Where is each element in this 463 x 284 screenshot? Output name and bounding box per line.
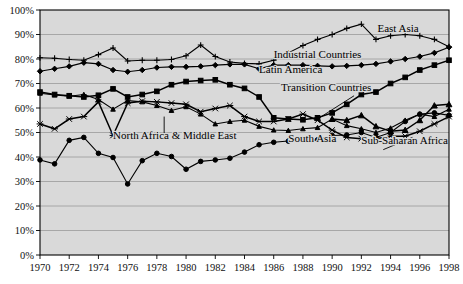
line-chart: 0%10%20%30%40%50%60%70%80%90%100%1970197…: [0, 0, 463, 284]
data-point: [111, 87, 116, 92]
data-point: [213, 158, 218, 163]
x-tick-label-1974: 1974: [88, 262, 110, 273]
series-label-east-asia: East Asia: [377, 22, 418, 34]
data-point: [359, 92, 364, 97]
x-tick-label-1978: 1978: [146, 262, 167, 273]
x-tick-label-1976: 1976: [117, 262, 138, 273]
x-tick-label-1996: 1996: [409, 262, 430, 273]
x-tick-label-1998: 1998: [439, 262, 460, 273]
data-point: [169, 82, 174, 87]
data-point: [140, 158, 145, 163]
series-label-north-africa-middle-east: North Africa & Middle East: [113, 129, 236, 141]
x-tick-label-1982: 1982: [205, 262, 226, 273]
y-tick-label-90: 90%: [15, 29, 35, 40]
data-point: [213, 78, 218, 83]
data-point: [374, 90, 379, 95]
data-point: [403, 75, 408, 80]
data-point: [184, 167, 189, 172]
y-tick-label-80: 80%: [15, 54, 35, 65]
x-tick-label-1970: 1970: [30, 262, 51, 273]
data-point: [169, 154, 174, 159]
data-point: [198, 159, 203, 164]
data-point: [271, 140, 276, 145]
y-tick-label-30: 30%: [15, 176, 35, 187]
series-label-industrial-countries: Industrial Countries: [274, 48, 362, 60]
series-label-south-asia: South Asia: [288, 132, 336, 144]
data-point: [242, 150, 247, 155]
x-tick-label-1990: 1990: [322, 262, 343, 273]
y-tick-label-70: 70%: [15, 78, 35, 89]
x-tick-label-1984: 1984: [234, 262, 256, 273]
series-label-latin-america: Latin America: [259, 63, 322, 75]
x-tick-label-1986: 1986: [263, 262, 284, 273]
data-point: [111, 155, 116, 160]
series-annotation-1: Industrial CountriesIndustrial Countries: [274, 48, 362, 60]
data-point: [155, 89, 160, 94]
data-point: [198, 78, 203, 83]
x-axis: 1970197219741976197819801982198419861988…: [30, 255, 460, 273]
y-tick-label-60: 60%: [15, 103, 35, 114]
data-point: [242, 86, 247, 91]
x-tick-label-1980: 1980: [176, 262, 197, 273]
data-point: [184, 79, 189, 84]
data-point: [403, 119, 408, 124]
data-point: [417, 112, 422, 117]
data-point: [257, 142, 262, 147]
y-tick-label-20: 20%: [15, 201, 35, 212]
data-point: [417, 68, 422, 73]
series-annotation-0: East AsiaEast Asia: [377, 22, 418, 34]
y-tick-label-40: 40%: [15, 152, 35, 163]
y-tick-label-50: 50%: [15, 127, 35, 138]
data-point: [82, 135, 87, 140]
y-tick-label-10: 10%: [15, 225, 35, 236]
y-axis: 0%10%20%30%40%50%60%70%80%90%100%: [10, 5, 41, 261]
data-point: [125, 182, 130, 187]
data-point: [67, 138, 72, 143]
series-annotation-2: Latin AmericaLatin America: [259, 63, 322, 75]
series-label-sub-saharan-africa: Sub-Saharan Africa: [361, 134, 448, 146]
data-point: [96, 151, 101, 156]
data-point: [228, 82, 233, 87]
data-point: [228, 156, 233, 161]
x-tick-label-1972: 1972: [59, 262, 80, 273]
x-tick-label-1994: 1994: [380, 262, 402, 273]
data-point: [301, 117, 306, 122]
y-tick-label-100: 100%: [10, 5, 35, 16]
series-annotation-5: South AsiaSouth Asia: [288, 132, 336, 144]
x-tick-label-1988: 1988: [292, 262, 313, 273]
series-label-transition-countries: Transition Countries: [281, 81, 371, 93]
data-point: [155, 151, 160, 156]
chart-container: 0%10%20%30%40%50%60%70%80%90%100%1970197…: [0, 0, 463, 284]
data-point: [344, 102, 349, 107]
data-point: [257, 95, 262, 100]
data-point: [432, 63, 437, 68]
x-tick-label-1992: 1992: [351, 262, 372, 273]
data-point: [330, 111, 335, 116]
data-point: [388, 81, 393, 86]
y-tick-label-0: 0%: [20, 250, 34, 261]
data-point: [52, 162, 57, 167]
data-point: [432, 111, 437, 116]
data-point: [140, 92, 145, 97]
